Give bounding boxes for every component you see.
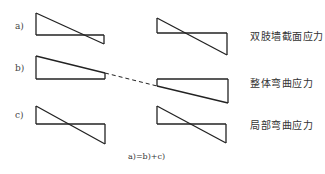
description-c: 局部弯曲应力 bbox=[250, 117, 313, 132]
row-label-a: a) bbox=[15, 21, 24, 31]
stress-shape-b-right bbox=[157, 79, 228, 103]
description-a: 双肢墙截面应力 bbox=[250, 28, 324, 43]
stress-shape-a-left bbox=[36, 13, 104, 44]
description-b: 整体弯曲应力 bbox=[250, 75, 313, 90]
stress-shape-a-right bbox=[157, 18, 227, 55]
stress-shape-b-left bbox=[36, 56, 105, 79]
row-label-c: c) bbox=[15, 110, 24, 120]
stress-shape-c-right bbox=[157, 106, 226, 143]
equation-label: a)=b)+c) bbox=[128, 152, 165, 161]
row-label-b: b) bbox=[15, 63, 24, 73]
stress-shape-c-left bbox=[36, 106, 105, 144]
dashed-extension-line bbox=[105, 73, 157, 86]
